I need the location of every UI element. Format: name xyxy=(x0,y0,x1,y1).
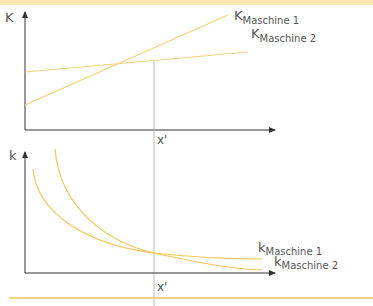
upper-x-marker: x' xyxy=(157,133,167,147)
lower-x-marker: x' xyxy=(157,280,167,294)
k-maschine-2-label: KMaschine 2 xyxy=(251,26,316,44)
k-maschine-1-unit-label: kMaschine 1 xyxy=(258,240,322,257)
lower-chart: k kMaschine 1 kMaschine 2 x' xyxy=(9,148,338,294)
lower-y-axis-label: k xyxy=(9,148,17,163)
cost-comparison-chart: K KMaschine 1 KMaschine 2 x' k kMaschine… xyxy=(0,0,373,306)
k-maschine-2-curve xyxy=(55,149,262,270)
k-maschine-1-line xyxy=(25,15,228,105)
k-maschine-1-curve xyxy=(33,169,262,259)
upper-y-axis-label: K xyxy=(5,10,14,25)
upper-chart: K KMaschine 1 KMaschine 2 x' xyxy=(5,8,316,306)
k-maschine-1-label: KMaschine 1 xyxy=(234,8,299,26)
